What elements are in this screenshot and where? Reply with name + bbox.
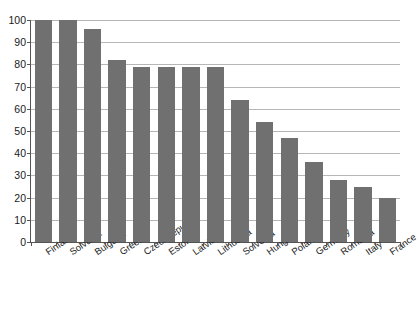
y-tick-label: 80 xyxy=(14,59,26,70)
bar xyxy=(158,67,175,242)
bar xyxy=(354,187,371,243)
y-tick-label: 20 xyxy=(14,192,26,203)
bar xyxy=(84,29,101,242)
x-tick-mark xyxy=(105,242,106,246)
x-tick-mark xyxy=(252,242,253,246)
bar xyxy=(305,162,322,242)
y-tick-label: 0 xyxy=(20,237,26,248)
y-gridline xyxy=(31,20,400,21)
x-tick-mark xyxy=(351,242,352,246)
x-tick-mark xyxy=(302,242,303,246)
x-tick-mark xyxy=(203,242,204,246)
bar xyxy=(59,20,76,242)
bar xyxy=(330,180,347,242)
x-tick-mark xyxy=(154,242,155,246)
bar xyxy=(182,67,199,242)
x-tick-mark xyxy=(375,242,376,246)
x-tick-mark xyxy=(400,242,401,246)
y-tick-mark xyxy=(27,175,31,176)
bar xyxy=(379,198,396,242)
y-tick-label: 40 xyxy=(14,148,26,159)
x-tick-mark xyxy=(80,242,81,246)
y-tick-label: 70 xyxy=(14,81,26,92)
x-tick-mark xyxy=(31,242,32,246)
bar xyxy=(35,20,52,242)
y-tick-label: 50 xyxy=(14,126,26,137)
y-tick-label: 60 xyxy=(14,104,26,115)
y-tick-mark xyxy=(27,20,31,21)
y-tick-label: 90 xyxy=(14,37,26,48)
bar xyxy=(133,67,150,242)
y-tick-mark xyxy=(27,220,31,221)
x-tick-mark xyxy=(56,242,57,246)
y-tick-mark xyxy=(27,131,31,132)
x-tick-mark xyxy=(129,242,130,246)
y-tick-mark xyxy=(27,42,31,43)
x-tick-mark xyxy=(326,242,327,246)
y-tick-mark xyxy=(27,87,31,88)
y-tick-mark xyxy=(27,109,31,110)
y-tick-mark xyxy=(27,64,31,65)
bar xyxy=(256,122,273,242)
x-tick-mark xyxy=(277,242,278,246)
bar xyxy=(207,67,224,242)
bar xyxy=(281,138,298,242)
y-tick-mark xyxy=(27,198,31,199)
y-tick-mark xyxy=(27,153,31,154)
bar xyxy=(231,100,248,242)
x-tick-mark xyxy=(179,242,180,246)
y-tick-label: 30 xyxy=(14,170,26,181)
y-tick-label: 10 xyxy=(14,215,26,226)
y-tick-label: 100 xyxy=(8,15,26,26)
plot-area: 0102030405060708090100FinlandSolvakiaBul… xyxy=(30,20,400,243)
x-tick-mark xyxy=(228,242,229,246)
bar xyxy=(108,60,125,242)
